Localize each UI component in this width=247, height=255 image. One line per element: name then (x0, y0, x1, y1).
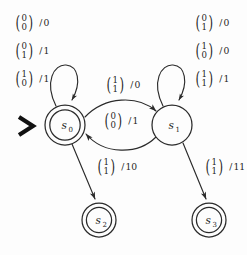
input-vector: ( 1 0 ) (10, 70, 38, 88)
input-bit-bottom: 0 (21, 23, 26, 32)
state-node-s2[interactable]: s 2 (82, 203, 116, 237)
start-arrow-marker (19, 117, 33, 135)
input-vector: ( 0 0 ) (10, 14, 38, 32)
state-machine-diagram: s 0 s 1 s 2 s 3 ( 0 0 (0, 0, 247, 255)
input-vector: ( 1 1 ) (92, 158, 120, 176)
transition-label-s0-loop-00: ( 0 0 ) /0 (10, 14, 49, 32)
output-value: /0 (218, 46, 229, 55)
state-node-s3[interactable]: s 3 (192, 203, 226, 237)
self-loop-s0 (51, 65, 78, 106)
self-loop-s1 (158, 65, 185, 106)
input-bit-bottom: 1 (103, 167, 108, 176)
input-vector: ( 1 0 ) (190, 42, 218, 60)
output-value: /11 (228, 162, 245, 171)
input-vector: ( 1 1 ) (190, 70, 218, 88)
input-bit-bottom: 1 (201, 79, 206, 88)
input-vector: ( 0 0 ) (99, 112, 127, 130)
input-vector: ( 1 1 ) (200, 158, 228, 176)
state-subscript-s0: 0 (69, 126, 73, 134)
input-vector: ( 1 1 ) (101, 76, 129, 94)
input-bit-bottom: 0 (110, 121, 115, 130)
state-label-s0: s (62, 119, 68, 131)
state-node-s0[interactable]: s 0 (45, 105, 85, 145)
transition-label-s0-loop-01: ( 0 1 ) /1 (10, 42, 49, 60)
state-label-s1: s (169, 119, 175, 131)
state-node-s1[interactable]: s 1 (152, 105, 192, 145)
input-vector: ( 0 1 ) (10, 42, 38, 60)
output-value: /1 (38, 46, 49, 55)
transition-label-s1-to-s3: ( 1 1 ) /11 (200, 158, 245, 176)
state-subscript-s3: 3 (213, 221, 217, 229)
output-value: /0 (218, 18, 229, 27)
output-value: /0 (129, 80, 140, 89)
output-value: /1 (38, 74, 49, 83)
input-bit-bottom: 1 (21, 51, 26, 60)
output-value: /1 (218, 74, 229, 83)
edge-s1-to-s0 (86, 134, 156, 150)
transition-label-s1-loop-10: ( 1 0 ) /0 (190, 42, 229, 60)
input-bit-bottom: 1 (112, 85, 117, 94)
transition-label-s1-loop-11: ( 1 1 ) /1 (190, 70, 229, 88)
transition-label-s0-to-s1: ( 1 1 ) /0 (101, 76, 140, 94)
state-label-s3: s (206, 214, 212, 226)
input-bit-bottom: 0 (201, 51, 206, 60)
state-label-s2: s (96, 214, 102, 226)
state-subscript-s2: 2 (103, 221, 107, 229)
output-value: /1 (127, 116, 138, 125)
input-bit-bottom: 1 (201, 23, 206, 32)
transition-label-s1-loop-01: ( 0 1 ) /0 (190, 14, 229, 32)
input-bit-bottom: 1 (211, 167, 216, 176)
state-subscript-s1: 1 (176, 126, 180, 134)
transition-label-s1-to-s0: ( 0 0 ) /1 (99, 112, 138, 130)
transition-label-s0-to-s2: ( 1 1 ) /10 (92, 158, 137, 176)
input-bit-bottom: 0 (21, 79, 26, 88)
transition-label-s0-loop-10: ( 1 0 ) /1 (10, 70, 49, 88)
output-value: /10 (120, 162, 137, 171)
output-value: /0 (38, 18, 49, 27)
input-vector: ( 0 1 ) (190, 14, 218, 32)
